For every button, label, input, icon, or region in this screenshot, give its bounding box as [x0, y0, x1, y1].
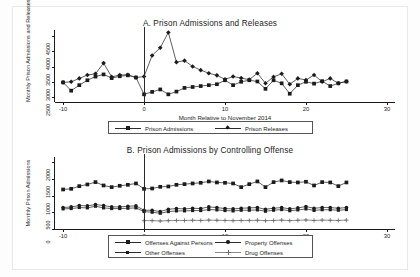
series-point-drug-offenses [336, 218, 340, 222]
panel-a-x-tick [144, 102, 145, 105]
panel-a-x-tick-label: 20 [294, 106, 318, 112]
series-point-offenses-against-persons [110, 185, 114, 189]
series-point-offenses-against-persons [272, 180, 276, 184]
series-point-other-offenses [70, 207, 73, 210]
panel-b-x-tick [387, 229, 388, 232]
panel-a-y-tick [52, 67, 55, 68]
series-point-other-offenses [264, 210, 267, 213]
series-point-prison-admissions [183, 86, 187, 90]
series-point-drug-offenses [191, 218, 195, 222]
series-point-offenses-against-persons [183, 182, 187, 186]
panel-b-title: B. Prison Admissions by Controlling Offe… [0, 146, 420, 155]
series-point-other-offenses [248, 209, 251, 212]
series-point-offenses-against-persons [199, 181, 203, 185]
series-point-other-offenses [288, 209, 291, 212]
series-point-drug-offenses [166, 219, 170, 223]
series-point-other-offenses [345, 208, 348, 211]
panel-a-x-tick [306, 102, 307, 105]
panel-a-x-axis-title: Month Relative to November 2014 [55, 114, 395, 121]
series-point-prison-releases [207, 71, 212, 76]
series-point-offenses-against-persons [69, 187, 73, 191]
legend-label: Prison Admissions [145, 126, 193, 132]
series-point-other-offenses [199, 209, 202, 212]
series-point-prison-admissions [166, 92, 170, 96]
series-point-other-offenses [232, 209, 235, 212]
series-point-drug-offenses [288, 219, 292, 223]
legend-item-prison-admissions[interactable]: Prison Admissions [115, 124, 193, 134]
series-point-other-offenses [78, 206, 81, 209]
legend-item-drug-offenses[interactable]: Drug Offenses [215, 248, 283, 258]
series-point-other-offenses [175, 209, 178, 212]
series-point-offenses-against-persons [320, 180, 324, 184]
panel-b-x-tick [225, 229, 226, 232]
series-point-prison-releases [69, 79, 74, 84]
series-point-drug-offenses [320, 218, 324, 222]
legend-marker-plus-icon [215, 249, 241, 257]
series-point-other-offenses [215, 208, 218, 211]
series-point-drug-offenses [328, 218, 332, 222]
series-point-other-offenses [272, 209, 275, 212]
series-point-other-offenses [86, 206, 89, 209]
series-point-prison-admissions [280, 81, 284, 85]
series-point-other-offenses [183, 209, 186, 212]
series-point-prison-releases [231, 74, 236, 79]
series-point-other-offenses [296, 208, 299, 211]
legend-label: Offenses Against Persons [145, 240, 213, 246]
legend-item-prison-releases[interactable]: Prison Releases [215, 124, 288, 134]
series-point-other-offenses [134, 206, 137, 209]
legend-label: Drug Offenses [245, 250, 283, 256]
series-point-drug-offenses [280, 218, 284, 222]
series-point-prison-admissions [150, 90, 154, 94]
series-point-offenses-against-persons [150, 187, 154, 191]
series-point-other-offenses [167, 210, 170, 213]
panel-b-y-tick [52, 212, 55, 213]
series-point-offenses-against-persons [296, 181, 300, 185]
series-point-drug-offenses [223, 218, 227, 222]
series-point-other-offenses [280, 208, 283, 211]
series-point-prison-admissions [207, 83, 211, 87]
panel-b-x-tick [306, 229, 307, 232]
series-point-offenses-against-persons [126, 183, 130, 187]
panel-a-y-tick [52, 97, 55, 98]
series-point-offenses-against-persons [191, 182, 195, 186]
panel-b-y-tick [52, 196, 55, 197]
panel-a-title: A. Prison Admissions and Releases [0, 19, 420, 28]
series-point-offenses-against-persons [231, 182, 235, 186]
series-point-offenses-against-persons [239, 185, 243, 189]
panel-b-x-tick-label: 30 [375, 233, 399, 239]
series-point-prison-releases [166, 30, 171, 35]
panel-b-plot-area: 0500100015002000-100102030 [55, 157, 395, 229]
series-point-prison-admissions [264, 87, 268, 91]
series-point-offenses-against-persons [304, 180, 308, 184]
series-point-prison-admissions [191, 85, 195, 89]
series-point-other-offenses [329, 208, 332, 211]
series-point-other-offenses [223, 209, 226, 212]
panel-a-y-tick [52, 51, 55, 52]
legend-item-other-offenses[interactable]: Other Offenses [115, 248, 185, 258]
series-point-other-offenses [62, 207, 65, 210]
series-point-offenses-against-persons [280, 179, 284, 183]
panel-b-y-tick [52, 229, 55, 230]
series-point-prison-releases [215, 73, 220, 78]
panel-a-x-tick [387, 102, 388, 105]
panel-a-legend: Prison AdmissionsPrison Releases [108, 121, 313, 134]
series-point-prison-releases [85, 73, 90, 78]
series-point-offenses-against-persons [247, 182, 251, 186]
panel-a-x-tick-label: 30 [375, 106, 399, 112]
series-point-drug-offenses [304, 218, 308, 222]
panel-a-plot-area: 25003000350040004500-100102030 [55, 30, 395, 102]
series-point-other-offenses [256, 208, 259, 211]
legend-item-offenses-against-persons[interactable]: Offenses Against Persons [115, 238, 213, 248]
series-point-drug-offenses [182, 218, 186, 222]
series-point-offenses-against-persons [223, 181, 227, 185]
series-point-offenses-against-persons [264, 185, 268, 189]
series-point-drug-offenses [158, 219, 162, 223]
series-point-drug-offenses [231, 219, 235, 223]
series-point-offenses-against-persons [134, 182, 138, 186]
series-point-other-offenses [102, 206, 105, 209]
legend-item-property-offenses[interactable]: Property Offenses [215, 238, 292, 248]
series-line-other-offenses [63, 206, 346, 213]
series-point-prison-admissions [296, 83, 300, 87]
legend-marker-square-small-icon [115, 249, 141, 257]
series-point-offenses-against-persons [77, 184, 81, 188]
